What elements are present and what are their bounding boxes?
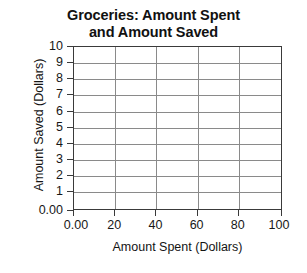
gridline-horizontal — [74, 144, 281, 145]
y-tick-mark — [67, 143, 73, 144]
y-tick-label: 5 — [56, 121, 63, 134]
y-axis-title: Amount Saved (Dollars) — [32, 40, 46, 210]
x-tick-label: 100 — [269, 219, 290, 232]
gridline-horizontal — [74, 160, 281, 161]
y-tick-label: 10 — [49, 40, 63, 53]
y-tick-label: 8 — [56, 72, 63, 85]
x-tick-label: 0.00 — [64, 219, 88, 232]
plot-area — [73, 46, 282, 210]
gridline-horizontal — [74, 192, 281, 193]
y-tick-label: 7 — [56, 88, 63, 101]
gridline-horizontal — [74, 95, 281, 96]
x-tick-label: 20 — [107, 219, 121, 232]
y-tick-mark — [67, 46, 73, 47]
x-tick-label: 40 — [148, 219, 162, 232]
gridline-vertical — [156, 47, 157, 209]
gridline-vertical — [239, 47, 240, 209]
x-tick-mark — [238, 210, 239, 216]
x-tick-mark — [73, 210, 74, 216]
x-tick-mark — [197, 210, 198, 216]
y-tick-mark — [67, 159, 73, 160]
y-tick-mark — [67, 62, 73, 63]
y-tick-mark — [67, 127, 73, 128]
y-tick-mark — [67, 175, 73, 176]
gridline-vertical — [198, 47, 199, 209]
gridline-horizontal — [74, 112, 281, 113]
x-tick-mark — [281, 210, 282, 216]
y-tick-label: 1 — [56, 185, 63, 198]
y-tick-label: 9 — [56, 56, 63, 69]
x-axis-title: Amount Spent (Dollars) — [73, 240, 282, 254]
y-tick-mark — [67, 191, 73, 192]
chart-title: Groceries: Amount Spent and Amount Saved — [0, 7, 307, 41]
y-tick-mark — [67, 111, 73, 112]
x-tick-label: 80 — [231, 219, 245, 232]
gridline-horizontal — [74, 79, 281, 80]
y-tick-label: 2 — [56, 169, 63, 182]
gridline-horizontal — [74, 128, 281, 129]
x-tick-label: 60 — [190, 219, 204, 232]
y-tick-label: 3 — [56, 153, 63, 166]
gridline-horizontal — [74, 176, 281, 177]
gridline-horizontal — [74, 63, 281, 64]
y-tick-label: 4 — [56, 137, 63, 150]
y-tick-mark — [67, 94, 73, 95]
x-tick-mark — [114, 210, 115, 216]
y-tick-label: 6 — [56, 105, 63, 118]
y-tick-mark — [67, 78, 73, 79]
x-tick-mark — [155, 210, 156, 216]
gridline-vertical — [115, 47, 116, 209]
